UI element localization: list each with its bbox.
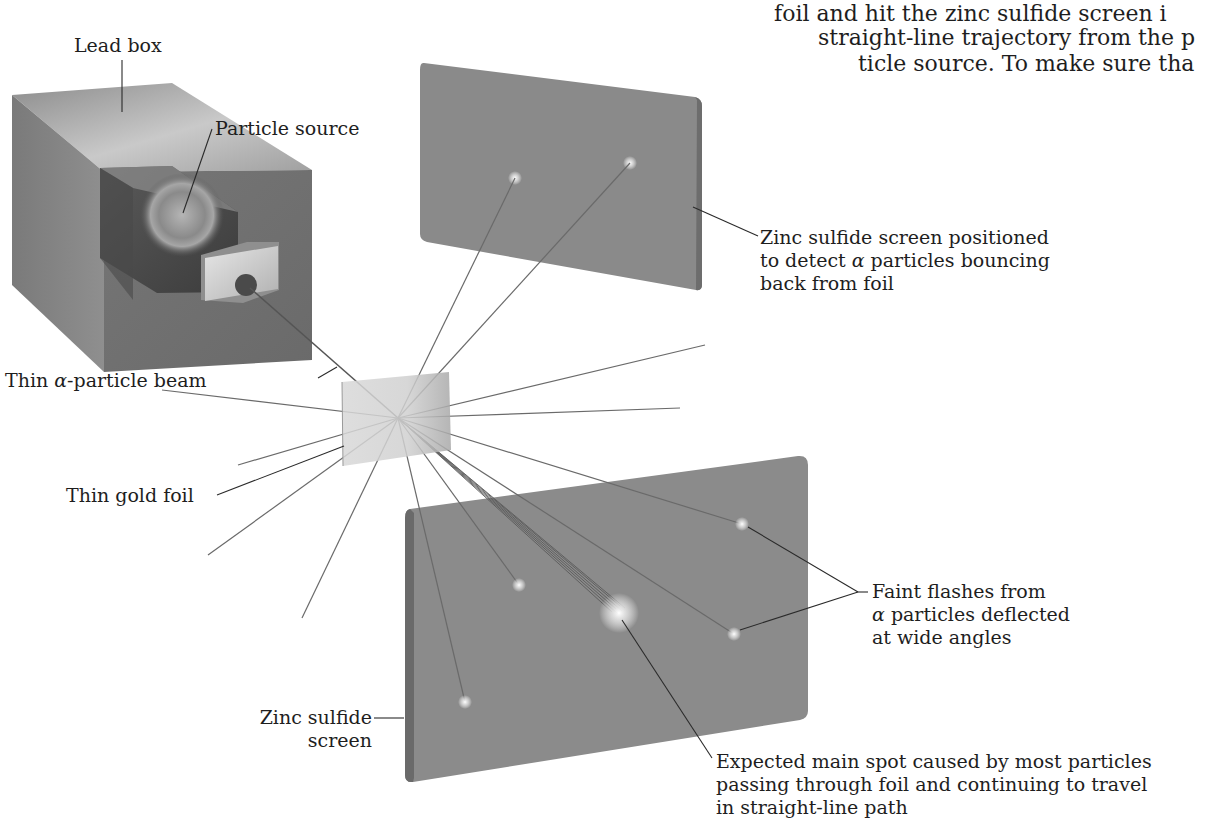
alpha-symbol: α [872,603,885,625]
rutherford-experiment-diagram [0,0,1208,822]
alpha-symbol: α [54,369,67,391]
back-zinc-sulfide-screen [420,63,702,290]
label-back-screen: Zinc sulfide screen positioned to detect… [760,226,1050,295]
label-faint-flashes-line-2: α particles deflected [872,603,1070,626]
label-front-screen-line-1: Zinc sulfide [234,706,372,729]
alpha-symbol: α [852,249,865,271]
label-back-screen-line-3: back from foil [760,272,1050,295]
label-gold-foil: Thin gold foil [66,484,194,507]
label-front-screen: Zinc sulfide screen [234,706,372,752]
body-text-line-2: straight-line trajectory from the p [818,24,1195,51]
label-particle-source: Particle source [215,117,359,140]
label-back-screen-line-2: to detect α particles bouncing [760,249,1050,272]
label-main-spot-line-3: in straight-line path [716,796,1152,819]
label-main-spot: Expected main spot caused by most partic… [716,750,1152,819]
main-spot [599,593,639,633]
label-faint-flashes-line-1: Faint flashes from [872,580,1070,603]
label-faint-flashes: Faint flashes from α particles deflected… [872,580,1070,649]
label-faint-flashes-line-3: at wide angles [872,626,1070,649]
gold-foil [342,372,451,466]
body-text-line-3: ticle source. To make sure tha [858,50,1194,77]
body-text-line-1: foil and hit the zinc sulfide screen i [774,0,1167,27]
label-front-screen-line-2: screen [234,729,372,752]
label-main-spot-line-2: passing through foil and continuing to t… [716,773,1152,796]
particle-source-sphere [140,173,224,257]
label-alpha-beam: Thin α-particle beam [5,369,207,392]
aperture-hole [235,274,257,296]
label-lead-box: Lead box [74,34,162,57]
label-back-screen-line-1: Zinc sulfide screen positioned [760,226,1050,249]
label-main-spot-line-1: Expected main spot caused by most partic… [716,750,1152,773]
